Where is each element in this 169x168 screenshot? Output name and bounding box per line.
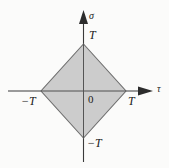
tau-axis-arrowhead [138, 87, 153, 96]
figure-canvas [0, 0, 169, 168]
tick-label-sigma-positive: T [89, 29, 96, 41]
sigma-axis-label: σ [89, 11, 94, 21]
tau-axis-label: τ [157, 84, 161, 94]
tick-label-tau-positive: T [128, 95, 135, 107]
origin-label: 0 [88, 94, 94, 105]
sigma-axis-arrowhead [79, 10, 88, 24]
tick-label-tau-negative: −T [21, 95, 36, 107]
tick-label-sigma-negative: −T [87, 137, 102, 149]
yield-locus-figure: σ τ T T −T −T 0 [0, 0, 169, 168]
